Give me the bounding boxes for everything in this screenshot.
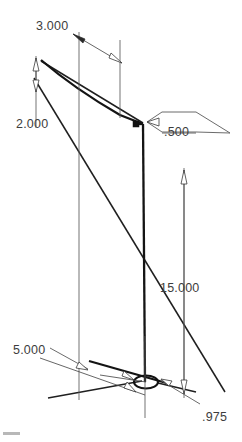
- dim-label-975: .975: [202, 410, 227, 424]
- arrow-head-2000-top: [33, 58, 39, 71]
- extension-lines: [36, 32, 184, 418]
- arrow-head-15000-top: [181, 170, 187, 184]
- bottom-edge-artifact: [3, 432, 20, 435]
- dim-label-5000: 5.000: [13, 343, 45, 357]
- dimension-975[interactable]: .975: [100, 371, 227, 424]
- dim-label-3000: 3.000: [36, 19, 68, 33]
- corner-vertex-marker: [133, 121, 139, 127]
- dim-label-500: .500: [164, 125, 189, 139]
- arrow-head-15000-bottom: [181, 380, 187, 394]
- arrow-head-500: [147, 118, 159, 126]
- edge-long-diagonal: [34, 78, 225, 392]
- dim-label-15000: 15.000: [160, 281, 199, 295]
- dim-label-2000: 2.000: [16, 117, 48, 131]
- dimension-15000[interactable]: 15.000: [160, 170, 199, 394]
- dimension-500[interactable]: .500: [147, 112, 230, 139]
- model-geometry: [34, 60, 225, 398]
- cad-drawing-canvas[interactable]: 3.000 2.000 .500 15.000 5.000 .975: [0, 0, 242, 442]
